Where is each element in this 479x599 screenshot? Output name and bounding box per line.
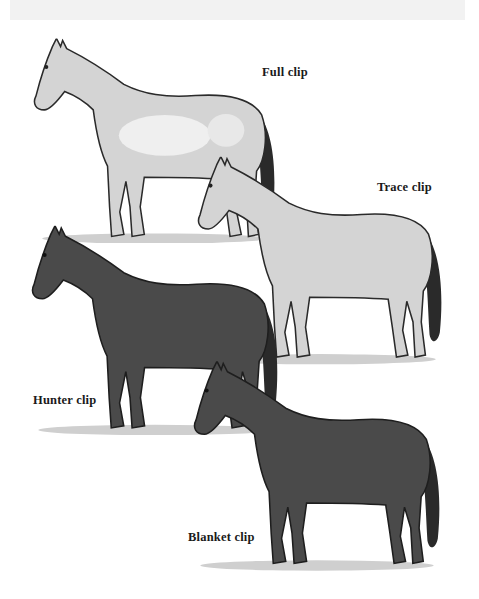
top-strip xyxy=(10,0,465,20)
label-trace-clip: Trace clip xyxy=(377,180,432,195)
label-blanket-clip: Blanket clip xyxy=(188,530,255,545)
label-full-clip: Full clip xyxy=(262,65,308,80)
label-hunter-clip: Hunter clip xyxy=(33,393,96,408)
